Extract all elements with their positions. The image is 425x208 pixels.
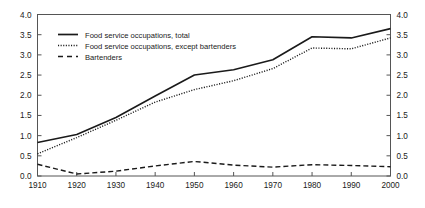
y-tick-label-right: 4.0 [397, 11, 409, 20]
x-tick-label: 1940 [146, 181, 165, 190]
y-tick-label-right: 3.0 [397, 51, 409, 60]
x-tick-label: 1930 [107, 181, 126, 190]
y-tick-label-right: 2.0 [397, 91, 409, 100]
x-tick-label: 2000 [381, 181, 400, 190]
x-tick-label: 1960 [225, 181, 244, 190]
y-tick-label-right: 2.5 [397, 71, 409, 80]
y-tick-label-right: 1.5 [397, 111, 409, 120]
y-tick-label-left: 3.5 [20, 31, 32, 40]
x-axis-ticks: 1910192019301940195019601970198019902000 [28, 172, 400, 190]
y-axis-left-ticks: 0.00.51.01.52.02.53.03.54.0 [20, 11, 41, 182]
y-tick-label-left: 2.0 [20, 91, 32, 100]
series-line-2 [38, 161, 391, 174]
x-tick-label: 1990 [342, 181, 361, 190]
x-tick-label: 1950 [185, 181, 204, 190]
y-tick-label-left: 0.0 [20, 172, 32, 181]
line-chart: 0.00.51.01.52.02.53.03.54.0 0.00.51.01.5… [0, 0, 425, 208]
y-axis-right-ticks: 0.00.51.01.52.02.53.03.54.0 [387, 11, 409, 182]
legend-label-2: Bartenders [85, 53, 122, 62]
y-tick-label-left: 1.5 [20, 111, 32, 120]
x-tick-label: 1970 [264, 181, 283, 190]
chart-figure: 0.00.51.01.52.02.53.03.54.0 0.00.51.01.5… [0, 0, 425, 208]
x-tick-label: 1980 [303, 181, 322, 190]
y-tick-label-left: 4.0 [20, 11, 32, 20]
y-tick-label-right: 0.0 [397, 172, 409, 181]
y-tick-label-right: 3.5 [397, 31, 409, 40]
y-tick-label-left: 2.5 [20, 71, 32, 80]
legend-label-1: Food service occupations, except bartend… [85, 42, 236, 51]
chart-legend: Food service occupations, totalFood serv… [58, 31, 236, 62]
y-tick-label-left: 1.0 [20, 132, 32, 141]
legend-label-0: Food service occupations, total [85, 31, 190, 40]
x-tick-label: 1920 [68, 181, 87, 190]
y-tick-label-right: 0.5 [397, 152, 409, 161]
y-tick-label-left: 3.0 [20, 51, 32, 60]
y-tick-label-left: 0.5 [20, 152, 32, 161]
y-tick-label-right: 1.0 [397, 132, 409, 141]
x-tick-label: 1910 [28, 181, 47, 190]
